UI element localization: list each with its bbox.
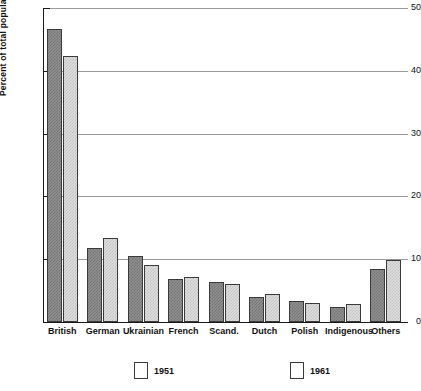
x-axis-label-british: British	[42, 326, 82, 336]
gridline	[44, 71, 408, 72]
bar-polish-1961	[305, 303, 320, 322]
legend-swatch-1961	[290, 362, 304, 379]
legend-label-1961: 1961	[310, 366, 330, 376]
chart-legend: 19511961	[0, 358, 421, 388]
y-axis-tick-label: 40	[387, 66, 421, 75]
x-axis-label-scand: Scand.	[204, 326, 244, 336]
y-axis-tick-mark	[44, 8, 50, 9]
legend-item-1951[interactable]: 1951	[134, 362, 174, 379]
bar-ukrainian-1961	[144, 265, 159, 322]
legend-swatch-1951	[134, 362, 148, 379]
legend-item-1961[interactable]: 1961	[290, 362, 330, 379]
x-axis-line	[43, 322, 408, 323]
bar-indigenous-1951	[330, 307, 345, 322]
gridline	[44, 134, 408, 135]
y-axis-tick-label: 50	[387, 3, 421, 12]
bar-british-1961	[63, 56, 78, 322]
bar-dutch-1951	[249, 297, 264, 322]
x-axis-label-german: German	[82, 326, 122, 336]
bar-german-1961	[103, 238, 118, 322]
y-axis-tick-label: 20	[387, 191, 421, 200]
bar-others-1961	[386, 260, 401, 322]
x-axis-label-polish: Polish	[285, 326, 325, 336]
gridline	[44, 196, 408, 197]
bar-british-1951	[47, 29, 62, 322]
bar-french-1961	[184, 277, 199, 322]
x-axis-label-dutch: Dutch	[244, 326, 284, 336]
bar-scand-1961	[225, 284, 240, 322]
bar-scand-1951	[209, 282, 224, 322]
x-axis-label-others: Others	[366, 326, 406, 336]
legend-label-1951: 1951	[154, 366, 174, 376]
y-axis-line	[43, 8, 44, 323]
x-axis-label-indigenous: Indigenous	[325, 326, 365, 336]
y-axis-tick-label: 30	[387, 129, 421, 138]
bar-polish-1951	[289, 301, 304, 322]
x-axis-label-ukrainian: Ukrainian	[123, 326, 163, 336]
bar-indigenous-1961	[346, 304, 361, 322]
x-axis-label-french: French	[163, 326, 203, 336]
bar-others-1951	[370, 269, 385, 322]
y-axis-label: Percent of total population	[0, 0, 8, 96]
bar-ukrainian-1951	[128, 256, 143, 322]
bar-german-1951	[87, 248, 102, 322]
bar-chart: Percent of total population 01020304050 …	[0, 0, 421, 391]
bar-dutch-1961	[265, 294, 280, 322]
bar-french-1951	[168, 279, 183, 322]
y-axis-tick-mark	[44, 322, 50, 323]
gridline	[44, 8, 408, 9]
